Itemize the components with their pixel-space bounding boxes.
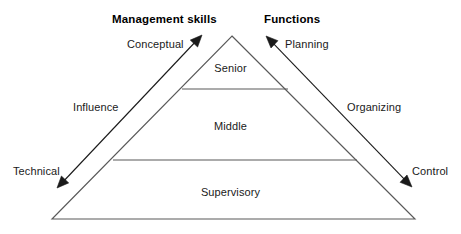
function-label-planning: Planning [285,38,329,51]
tier-label-senior: Senior [0,62,461,75]
skill-label-conceptual: Conceptual [127,38,184,51]
management-pyramid-diagram: Management skills Functions Conceptual I… [0,0,461,234]
tier-label-supervisory: Supervisory [0,186,461,199]
functions-header: Functions [264,13,320,26]
skill-label-technical: Technical [13,165,60,178]
skill-label-influence: Influence [73,101,119,114]
management-skills-header: Management skills [112,13,217,26]
function-label-control: Control [412,165,448,178]
function-label-organizing: Organizing [347,101,401,114]
tier-label-middle: Middle [0,120,461,133]
